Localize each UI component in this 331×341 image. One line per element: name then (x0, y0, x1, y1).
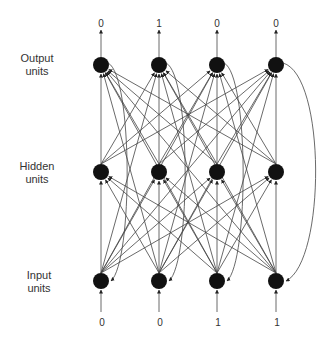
input-output-edge (217, 74, 274, 273)
hidden-output-edge (217, 73, 271, 164)
output-unit-1 (93, 57, 109, 73)
output-unit-2 (151, 57, 167, 73)
input-output-edge (101, 74, 157, 273)
input-hidden-edge (109, 176, 276, 273)
input-hidden-edge (105, 180, 159, 273)
input-hidden-edge (217, 180, 271, 273)
hidden-output-edge (164, 73, 217, 164)
hidden-unit-4 (268, 164, 284, 180)
input-output-edge (101, 72, 270, 273)
hidden-unit-1 (93, 164, 109, 180)
input-output-edge (161, 74, 217, 273)
feedback-edge (108, 63, 127, 281)
hidden-output-edge (222, 73, 276, 164)
hidden-unit-2 (151, 164, 167, 180)
input-output-edge (103, 74, 159, 273)
input-output-edge (107, 72, 276, 273)
hidden-output-edge (159, 71, 269, 164)
output-unit-4 (268, 57, 284, 73)
feedback-edge (283, 63, 316, 281)
input-unit-1 (93, 273, 109, 289)
output-unit-3 (209, 57, 225, 73)
input-hidden-edge (108, 178, 217, 273)
input-unit-2 (151, 273, 167, 289)
input-output-edge (219, 74, 276, 273)
nodes (93, 57, 284, 289)
hidden-output-edge (109, 69, 276, 164)
feedback-edge (166, 63, 185, 281)
input-unit-3 (209, 273, 225, 289)
input-output-edge (159, 74, 215, 273)
input-unit-4 (268, 273, 284, 289)
hidden-unit-3 (209, 164, 225, 180)
network-diagram (0, 0, 331, 341)
hidden-output-edge (106, 73, 159, 164)
